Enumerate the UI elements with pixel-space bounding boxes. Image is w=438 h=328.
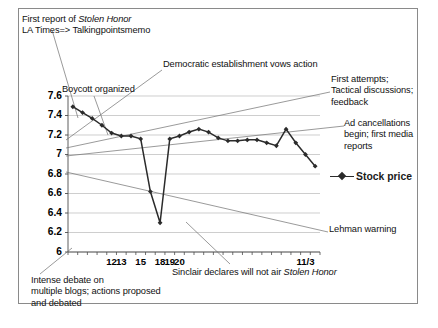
y-axis-tick-label: 7 bbox=[34, 148, 62, 159]
y-axis-tick-label: 6.6 bbox=[34, 187, 62, 198]
y-axis-tick-label: 7.4 bbox=[34, 109, 62, 120]
y-axis-tick-label: 7.6 bbox=[34, 90, 62, 101]
annotation-ad-cancellations: Ad cancellationsbegin; first mediareport… bbox=[344, 118, 413, 152]
y-axis-tick-label: 6.4 bbox=[34, 207, 62, 218]
annotation-boycott: Boycott organized bbox=[62, 84, 135, 95]
axis-ticks bbox=[65, 96, 320, 255]
y-axis-tick-label: 6.2 bbox=[34, 226, 62, 237]
line-diamond-marker-icon bbox=[330, 171, 354, 181]
annotation-first-attempts: First attempts;Tactical discussions;feed… bbox=[331, 74, 413, 108]
x-axis-tick-label: 11/3 bbox=[291, 256, 319, 267]
annotation-sinclair: Sinclair declares will not air Stolen Ho… bbox=[172, 267, 337, 278]
x-axis-tick-label: 20 bbox=[165, 256, 193, 267]
y-axis-tick-label: 6.8 bbox=[34, 168, 62, 179]
y-axis-tick-label: 6 bbox=[34, 246, 62, 257]
legend: Stock price bbox=[330, 170, 412, 182]
annotation-first-report: First report of Stolen HonorLA Times=> T… bbox=[22, 14, 150, 37]
annotation-lehman: Lehman warning bbox=[329, 224, 396, 235]
gridlines bbox=[68, 96, 320, 252]
y-axis-tick-label: 7.2 bbox=[34, 129, 62, 140]
legend-label: Stock price bbox=[356, 171, 412, 182]
annotation-intense-debate: Intense debate onmultiple blogs; actions… bbox=[31, 275, 161, 309]
stock-price-series bbox=[70, 104, 317, 225]
annotation-democratic: Democratic establishment vows action bbox=[163, 59, 318, 70]
